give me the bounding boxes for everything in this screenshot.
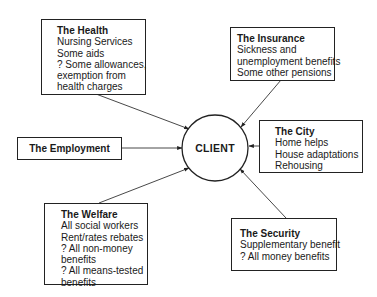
node-line: Rent/rates rebates: [61, 232, 147, 243]
node-line: Home helps: [275, 137, 362, 148]
arrow-health-to-client: [96, 94, 189, 129]
node-line: health charges: [57, 81, 145, 92]
node-line: Sickness and: [237, 44, 334, 55]
node-line: Some aids: [57, 48, 145, 59]
arrow-welfare-to-client: [99, 168, 189, 203]
node-line: ? All non-money: [61, 243, 147, 254]
node-employment: The Employment: [17, 137, 122, 160]
node-line: House adaptations: [275, 149, 362, 160]
client-label: CLIENT: [182, 142, 248, 154]
node-health: The Health Nursing Services Some aids ? …: [41, 19, 146, 95]
node-title: The Employment: [18, 143, 121, 154]
node-title: The Welfare: [61, 209, 147, 220]
node-city: The City Home helps House adaptations Re…: [259, 120, 363, 173]
node-line: benefits: [61, 254, 147, 265]
node-insurance: The Insurance Sickness and unemployment …: [230, 27, 335, 81]
node-security: The Security Supplementary benefit ? All…: [231, 218, 337, 271]
node-title: The City: [275, 126, 362, 137]
node-line: Some other pensions: [237, 67, 334, 78]
node-line: ? Some allowances,: [57, 59, 145, 70]
node-line: Rehousing: [275, 160, 362, 171]
node-welfare: The Welfare All social workers Rent/rate…: [44, 203, 148, 285]
node-line: exemption from: [57, 70, 145, 81]
node-line: All social workers: [61, 220, 147, 231]
node-line: ? All means-tested: [61, 265, 147, 276]
node-title: The Security: [240, 228, 336, 239]
node-line: Nursing Services: [57, 36, 145, 47]
node-line: ? All money benefits: [240, 251, 336, 262]
node-line: benefits: [61, 277, 147, 288]
node-title: The Insurance: [237, 33, 334, 44]
node-title: The Health: [57, 25, 145, 36]
node-line: Supplementary benefit: [240, 239, 336, 250]
arrow-security-to-client: [240, 169, 286, 218]
node-line: unemployment benefits: [237, 56, 334, 67]
